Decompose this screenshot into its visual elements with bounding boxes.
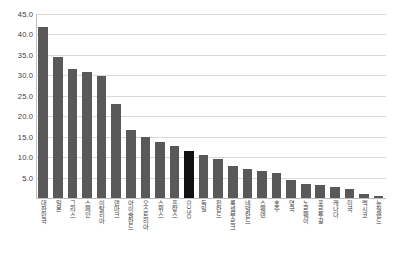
y-axis-tick-labels: 45.040.035.030.025.020.015.010.05.0: [0, 14, 33, 199]
y-tick-label: 35.0: [1, 50, 33, 59]
x-label-slot: 스페인: [80, 200, 95, 272]
bar: [53, 57, 63, 198]
bar-series: [36, 14, 386, 198]
bar-slot: [65, 14, 80, 198]
y-tick-label: 40.0: [1, 30, 33, 39]
y-tick-label: 25.0: [1, 91, 33, 100]
x-label-slot: 스웨덴: [255, 200, 270, 272]
bar-slot: [153, 14, 168, 198]
bar: [257, 171, 267, 198]
x-label-slot: 호주: [269, 200, 284, 272]
bar-slot: [211, 14, 226, 198]
bar-slot: [284, 14, 299, 198]
x-label-slot: 포르투갈: [313, 200, 328, 272]
y-tick-label: 10.0: [1, 153, 33, 162]
x-tick-label: 독일: [200, 200, 206, 212]
bar: [97, 76, 107, 198]
bar-slot: [328, 14, 343, 198]
x-tick-label: 스페인: [84, 200, 90, 218]
bar: [286, 180, 296, 198]
x-label-slot: 노르웨이: [298, 200, 313, 272]
x-axis-line: [36, 198, 386, 199]
y-tick-label: 15.0: [1, 132, 33, 141]
bar: [111, 104, 121, 198]
x-label-slot: 오스트리아: [138, 200, 153, 272]
x-tick-label: 핀란드: [215, 200, 221, 218]
x-tick-label: 스웨덴: [259, 200, 265, 218]
x-tick-label: 노르웨이: [303, 200, 309, 224]
y-tick-label: 20.0: [1, 112, 33, 121]
bar: [330, 187, 340, 198]
bar: [228, 166, 238, 198]
x-label-slot: 룩셈부르크: [226, 200, 241, 272]
bar: [141, 137, 151, 198]
bar-slot: [94, 14, 109, 198]
bar-chart: 45.040.035.030.025.020.015.010.05.0 대한민국…: [0, 0, 396, 275]
x-label-slot: 대한민국: [36, 200, 51, 272]
x-tick-label: 일본: [55, 200, 61, 212]
x-label-slot: OECD: [182, 200, 197, 272]
y-tick-label: 30.0: [1, 71, 33, 80]
x-axis-category-labels: 대한민국일본그리스스페인이탈리아덴마크아이슬란드오스트리아스위스프랑스OECD독…: [36, 200, 386, 272]
bar: [315, 185, 325, 198]
x-tick-label: 덴마크: [113, 200, 119, 218]
y-tick-label: 5.0: [1, 173, 33, 182]
x-label-slot: 프랑스: [167, 200, 182, 272]
bar: [38, 27, 48, 198]
bar-slot: [51, 14, 66, 198]
bar: [126, 130, 136, 198]
x-tick-label: 룩셈부르크: [230, 200, 236, 230]
x-tick-label: 스위스: [157, 200, 163, 218]
x-tick-label: 미국: [346, 200, 352, 212]
bar-slot: [109, 14, 124, 198]
x-label-slot: 뉴질랜드: [371, 200, 386, 272]
bar-slot: [182, 14, 197, 198]
bar-slot: [226, 14, 241, 198]
bar-slot: [269, 14, 284, 198]
x-tick-label: 네덜란드: [244, 200, 250, 224]
bar: [301, 184, 311, 198]
x-label-slot: 멕시코: [357, 200, 372, 272]
bar: [359, 194, 369, 198]
x-label-slot: 핀란드: [211, 200, 226, 272]
x-label-slot: 영국: [284, 200, 299, 272]
x-tick-label: 프랑스: [171, 200, 177, 218]
bar-slot: [167, 14, 182, 198]
bar: [213, 159, 223, 198]
bar: [170, 146, 180, 198]
bar-slot: [371, 14, 386, 198]
bar-slot: [357, 14, 372, 198]
x-label-slot: 그리스: [65, 200, 80, 272]
bar: [272, 173, 282, 198]
bar: [243, 169, 253, 198]
x-tick-label: 호주: [273, 200, 279, 212]
bar-slot: [196, 14, 211, 198]
bar-slot: [342, 14, 357, 198]
x-tick-label: 이탈리아: [98, 200, 104, 224]
bar-slot: [80, 14, 95, 198]
x-tick-label: 캐나다: [332, 200, 338, 218]
x-tick-label: 포르투갈: [317, 200, 323, 224]
bar-slot: [298, 14, 313, 198]
bar: [82, 72, 92, 198]
bar: [345, 189, 355, 198]
bar: [374, 196, 384, 198]
bar: [68, 69, 78, 198]
x-tick-label: 아이슬란드: [128, 200, 134, 230]
x-label-slot: 스위스: [153, 200, 168, 272]
x-tick-label: 오스트리아: [142, 200, 148, 230]
bar-highlight: [184, 151, 194, 198]
plot-area: [36, 14, 386, 198]
y-tick-label: 45.0: [1, 10, 33, 19]
x-label-slot: 일본: [51, 200, 66, 272]
x-tick-label: 뉴질랜드: [375, 200, 381, 224]
x-tick-label: 영국: [288, 200, 294, 212]
x-tick-label: 멕시코: [361, 200, 367, 218]
x-label-slot: 미국: [342, 200, 357, 272]
bar-slot: [240, 14, 255, 198]
bar-slot: [138, 14, 153, 198]
bar-slot: [313, 14, 328, 198]
x-label-slot: 이탈리아: [94, 200, 109, 272]
x-tick-label: OECD: [186, 200, 192, 219]
x-tick-label: 대한민국: [40, 200, 46, 224]
